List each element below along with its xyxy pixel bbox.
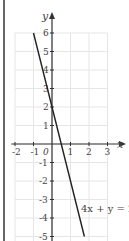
data-line xyxy=(34,33,85,237)
svg-text:5: 5 xyxy=(43,47,49,57)
svg-text:3: 3 xyxy=(105,147,111,157)
svg-text:-1: -1 xyxy=(31,147,40,157)
y-axis-label: y xyxy=(41,10,49,23)
x-axis-label: x xyxy=(117,138,124,151)
svg-text:-5: -5 xyxy=(39,232,48,241)
svg-text:6: 6 xyxy=(43,28,49,38)
svg-text:2: 2 xyxy=(43,102,49,112)
svg-text:1: 1 xyxy=(68,147,74,157)
svg-text:2: 2 xyxy=(86,147,92,157)
origin-label: 0 xyxy=(43,147,49,157)
svg-text:1: 1 xyxy=(43,121,49,131)
svg-text:-4: -4 xyxy=(39,213,48,223)
svg-text:-2: -2 xyxy=(12,147,21,157)
svg-text:-3: -3 xyxy=(39,195,48,205)
svg-text:-2: -2 xyxy=(39,176,48,186)
line-graph: -2-1123654321-1-2-3-4-5 x y 0 4x + y = 2 xyxy=(0,0,129,241)
equation-annotation: 4x + y = 2 xyxy=(81,203,129,214)
svg-text:-1: -1 xyxy=(39,158,48,168)
